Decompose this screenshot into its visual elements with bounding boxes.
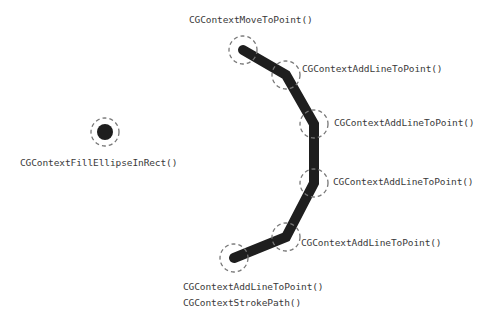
filled-ellipse-dot [97,124,113,140]
label-fill-ellipse: CGContextFillEllipseInRect() [20,157,177,168]
label-add-line-3: CGContextAddLineToPoint() [333,176,474,187]
label-add-line-1: CGContextAddLineToPoint() [302,63,443,74]
label-add-line-4: CGContextAddLineToPoint() [301,237,442,248]
label-add-line-2: CGContextAddLineToPoint() [334,117,475,128]
label-stroke-path: CGContextStrokePath() [183,297,301,308]
label-add-line-5: CGContextAddLineToPoint() [183,281,324,292]
label-move-to-point: CGContextMoveToPoint() [189,14,313,25]
